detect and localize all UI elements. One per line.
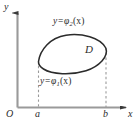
y-axis-label: y	[4, 2, 8, 12]
origin-label: O	[6, 109, 13, 119]
lower-eq-subscript: 1	[56, 80, 59, 87]
region-label-d: D	[85, 44, 93, 55]
upper-eq-argument: (x)	[73, 16, 85, 26]
lower-eq-argument: (x)	[60, 76, 72, 86]
lower-curve-equation: y=φ1(x)	[40, 77, 72, 87]
region-boundary-curve	[38, 35, 106, 74]
tick-label-a: a	[35, 109, 40, 119]
figure-region-d: y x O a b D y=φ2(x) y=φ1(x)	[0, 0, 139, 124]
upper-eq-subscript: 2	[69, 20, 72, 27]
upper-curve-equation: y=φ2(x)	[53, 17, 85, 27]
tick-label-b: b	[103, 109, 108, 119]
x-axis-label: x	[128, 109, 132, 119]
